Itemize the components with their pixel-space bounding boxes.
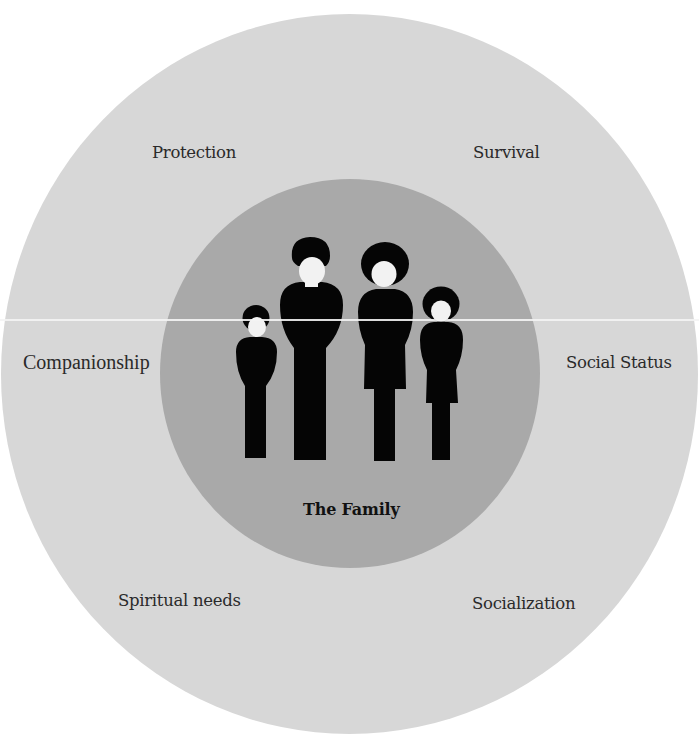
scan-artifact-line <box>0 319 699 321</box>
label-companionship: Companionship <box>23 352 150 372</box>
family-functions-diagram: Protection Survival Companionship Social… <box>0 0 699 744</box>
label-survival: Survival <box>473 143 539 163</box>
woman-figure-icon <box>358 242 413 461</box>
boy-figure-icon <box>236 305 277 458</box>
label-protection: Protection <box>152 143 236 163</box>
label-social-status: Social Status <box>566 353 672 373</box>
label-spiritual-needs: Spiritual needs <box>118 591 241 611</box>
man-figure-icon <box>280 237 343 460</box>
center-label-the-family: The Family <box>303 500 400 520</box>
girl-figure-icon <box>420 287 463 461</box>
label-socialization: Socialization <box>472 594 575 614</box>
